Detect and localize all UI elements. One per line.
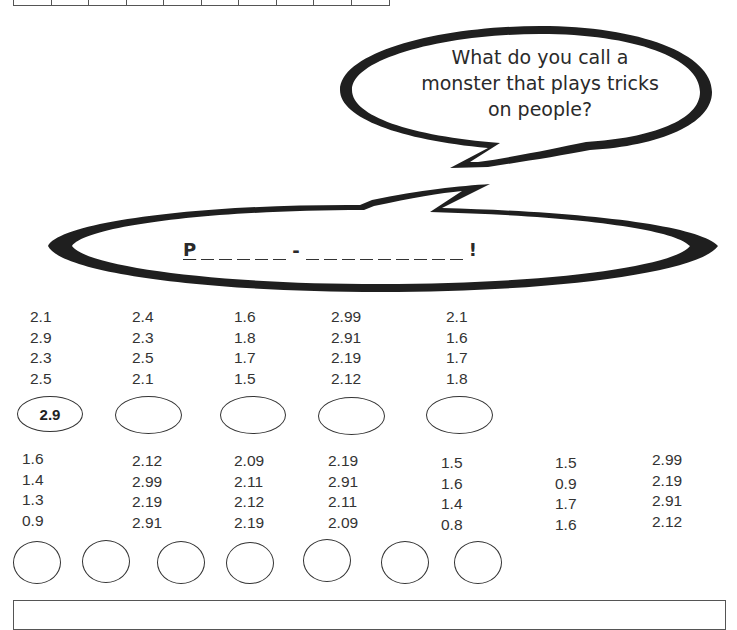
bottom-answer-box[interactable]: [13, 600, 726, 630]
number: 2.91: [132, 513, 162, 534]
answer-blank[interactable]: [324, 240, 337, 260]
answer-blank[interactable]: [414, 240, 427, 260]
answer-oval[interactable]: [318, 397, 385, 435]
answer-blank[interactable]: [219, 240, 232, 260]
number: 1.7: [446, 348, 468, 369]
number: 2.91: [328, 472, 358, 493]
number: 2.99: [652, 450, 682, 471]
question-line: What do you call a: [395, 44, 685, 70]
number-group: 1.6 1.4 1.3 0.9: [22, 449, 44, 531]
number: 2.19: [331, 348, 361, 369]
number: 2.5: [30, 369, 52, 390]
question-line: on people?: [395, 96, 685, 122]
answer-blank[interactable]: [342, 240, 355, 260]
number: 1.3: [22, 490, 44, 511]
number-group: 2.09 2.11 2.12 2.19: [234, 451, 264, 533]
number: 2.3: [30, 348, 52, 369]
number: 1.8: [234, 328, 256, 349]
answer-oval[interactable]: [82, 540, 130, 583]
answer-exclamation: !: [469, 239, 477, 260]
answer-oval[interactable]: [226, 542, 274, 584]
answer-blank[interactable]: [378, 240, 391, 260]
number-group: 2.99 2.19 2.91 2.12: [652, 450, 682, 532]
answer-blank[interactable]: [360, 240, 373, 260]
answer-oval[interactable]: [220, 396, 286, 434]
answer-oval[interactable]: [381, 541, 429, 584]
number: 2.12: [132, 451, 162, 472]
number: 1.6: [446, 328, 468, 349]
number: 0.9: [22, 511, 44, 532]
number: 1.5: [555, 453, 577, 474]
number-group: 1.5 1.6 1.4 0.8: [441, 453, 463, 535]
number: 2.19: [652, 471, 682, 492]
answer-oval[interactable]: 2.9: [17, 396, 83, 432]
answer-blank[interactable]: [432, 240, 445, 260]
number: 1.6: [234, 307, 256, 328]
number-group: 1.6 1.8 1.7 1.5: [234, 307, 256, 389]
number: 2.3: [132, 328, 154, 349]
number: 1.4: [441, 494, 463, 515]
number: 2.1: [132, 369, 154, 390]
answer-oval[interactable]: [303, 539, 351, 582]
answer-hyphen: -: [292, 242, 299, 260]
number-group: 2.1 2.9 2.3 2.5: [30, 307, 52, 389]
number: 0.8: [441, 515, 463, 536]
number-group: 2.1 1.6 1.7 1.8: [446, 307, 468, 389]
number: 0.9: [555, 474, 577, 495]
answer-oval[interactable]: [454, 541, 502, 584]
number: 2.12: [331, 369, 361, 390]
answer-oval[interactable]: [426, 396, 493, 434]
number: 2.12: [652, 512, 682, 533]
number-group: 2.12 2.99 2.19 2.91: [132, 451, 162, 533]
number: 2.11: [234, 472, 264, 493]
number: 2.4: [132, 307, 154, 328]
number: 1.5: [234, 369, 256, 390]
answer-blanks: P - !: [183, 232, 477, 260]
number: 2.12: [234, 492, 264, 513]
number: 1.6: [441, 474, 463, 495]
number: 2.9: [30, 328, 52, 349]
answer-first-letter: P: [183, 239, 196, 260]
answer-blank[interactable]: [306, 240, 319, 260]
number: 2.19: [132, 492, 162, 513]
number: 2.09: [328, 513, 358, 534]
answer-blank[interactable]: [255, 240, 268, 260]
answer-blank[interactable]: [450, 240, 463, 260]
number: 2.09: [234, 451, 264, 472]
answer-blank[interactable]: [201, 240, 214, 260]
number: 2.1: [446, 307, 468, 328]
number-group: 2.4 2.3 2.5 2.1: [132, 307, 154, 389]
number: 2.19: [328, 451, 358, 472]
number-group: 2.99 2.91 2.19 2.12: [331, 307, 361, 389]
answer-blank[interactable]: [396, 240, 409, 260]
number: 2.5: [132, 348, 154, 369]
number: 1.7: [555, 494, 577, 515]
number-group: 2.19 2.91 2.11 2.09: [328, 451, 358, 533]
number: 2.1: [30, 307, 52, 328]
number: 2.99: [132, 472, 162, 493]
number: 1.7: [234, 348, 256, 369]
answer-blank[interactable]: [273, 240, 286, 260]
number: 2.19: [234, 513, 264, 534]
number: 1.6: [555, 515, 577, 536]
number: 2.91: [652, 491, 682, 512]
number: 2.91: [331, 328, 361, 349]
answer-blank[interactable]: [237, 240, 250, 260]
answer-oval[interactable]: [13, 541, 61, 584]
answer-oval[interactable]: [157, 541, 205, 584]
number: 1.6: [22, 449, 44, 470]
question-text: What do you call a monster that plays tr…: [395, 44, 685, 122]
number-group: 1.5 0.9 1.7 1.6: [555, 453, 577, 535]
number: 1.4: [22, 470, 44, 491]
answer-oval[interactable]: [115, 396, 182, 434]
number: 2.11: [328, 492, 358, 513]
number: 1.8: [446, 369, 468, 390]
question-line: monster that plays tricks: [395, 70, 685, 96]
number: 1.5: [441, 453, 463, 474]
number: 2.99: [331, 307, 361, 328]
